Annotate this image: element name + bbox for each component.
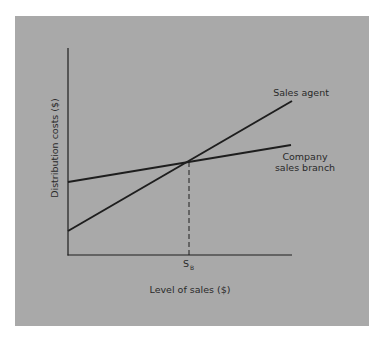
sales-agent-line (68, 101, 292, 231)
company-sales-branch-line (68, 145, 291, 182)
breakeven-tick-label: S (183, 258, 189, 269)
x-axis-title: Level of sales ($) (150, 284, 231, 295)
company-label-line2: sales branch (275, 162, 335, 173)
company-label-line1: Company (282, 151, 328, 162)
breakeven-tick-subscript: B (190, 264, 194, 271)
sales-agent-label: Sales agent (273, 87, 329, 98)
chart-canvas: Sales agent Company sales branch S B Lev… (0, 0, 383, 347)
y-axis-title: Distribution costs ($) (49, 98, 60, 198)
